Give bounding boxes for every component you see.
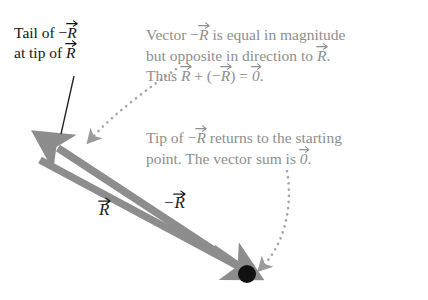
minus-sign: − — [163, 193, 174, 212]
magnitude-note-line-3: Thus R + (−R) = 0. — [146, 66, 345, 87]
tail-label-prefix: Tail of — [14, 24, 59, 41]
vector-zero-glyph: 0 — [252, 66, 260, 87]
vector-R-glyph: R — [317, 46, 326, 67]
minus-sign: − — [212, 67, 221, 84]
vector-letter: R — [317, 47, 326, 64]
vector-letter: R — [67, 24, 76, 41]
tip-note-line-2: point. The vector sum is 0. — [146, 149, 342, 170]
tip-note-line-1: Tip of −R returns to the starting — [146, 128, 342, 149]
magnitude-note-line-1: Vector −R is equal in magnitude — [146, 25, 345, 46]
vector-letter: R — [199, 26, 208, 43]
magnitude-note-line-2: but opposite in direction to R. — [146, 46, 345, 67]
vector-R-glyph: R — [196, 128, 205, 149]
vector-R-glyph: R — [67, 23, 76, 43]
figure-text-layer: Tail of −R at tip of R Vector −R is equa… — [0, 0, 428, 300]
text-fragment: . — [260, 67, 264, 84]
text-fragment: Vector — [146, 26, 190, 43]
zero-letter: 0 — [252, 67, 260, 84]
callout-tail-of-minus-R: Tail of −R at tip of R — [14, 23, 77, 63]
text-fragment: + ( — [190, 67, 212, 84]
vector-R-glyph: R — [181, 66, 190, 87]
vector-label-R: R — [99, 200, 109, 220]
text-fragment: . — [308, 150, 312, 167]
vector-R-glyph: R — [99, 200, 109, 220]
note-magnitude-opposite-direction: Vector −R is equal in magnitude but oppo… — [146, 25, 345, 87]
note-tip-returns-to-start: Tip of −R returns to the starting point.… — [146, 128, 342, 169]
tail-label-line-2: at tip of R — [14, 43, 77, 63]
tail-label-suffix: at tip of — [14, 44, 66, 61]
vector-negation-figure: Tail of −R at tip of R Vector −R is equa… — [0, 0, 428, 300]
zero-letter: 0 — [300, 150, 308, 167]
vector-R-glyph: R — [66, 43, 75, 63]
vector-letter: R — [66, 44, 75, 61]
text-fragment: returns to the starting — [206, 129, 342, 146]
vector-letter: R — [196, 129, 205, 146]
tail-label-line-1: Tail of −R — [14, 23, 77, 43]
vector-letter: R — [99, 200, 109, 219]
vector-letter: R — [221, 67, 230, 84]
vector-label-minus-R: −R — [163, 193, 185, 213]
text-fragment: Thus — [146, 67, 181, 84]
vector-zero-glyph: 0 — [300, 149, 308, 170]
minus-sign: − — [59, 24, 68, 41]
text-fragment: . — [326, 47, 330, 64]
text-fragment: Tip of — [146, 129, 188, 146]
text-fragment: ) = — [230, 67, 252, 84]
vector-letter: R — [174, 193, 184, 212]
minus-sign: − — [190, 26, 199, 43]
vector-R-glyph: R — [174, 193, 184, 213]
text-fragment: point. The vector sum is — [146, 150, 300, 167]
vector-R-glyph: R — [221, 66, 230, 87]
vector-R-glyph: R — [199, 25, 208, 46]
text-fragment: is equal in magnitude — [209, 26, 346, 43]
vector-letter: R — [181, 67, 190, 84]
text-fragment: but opposite in direction to — [146, 47, 317, 64]
